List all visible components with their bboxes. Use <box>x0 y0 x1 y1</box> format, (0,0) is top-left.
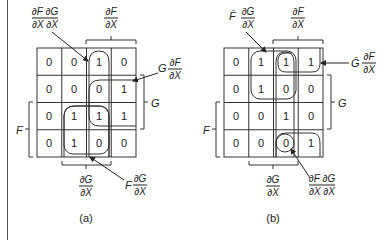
svg-text:∂G: ∂G <box>267 174 280 185</box>
cell-b-2-1: 0 <box>258 110 264 122</box>
cell-b-3-1: 0 <box>258 137 264 149</box>
brace-right-a <box>140 75 148 129</box>
cell-b-2-0: 0 <box>233 110 239 122</box>
cell-a-0-1: 0 <box>71 56 77 68</box>
svg-text:∂X: ∂X <box>134 186 146 197</box>
cell-b-1-2: 0 <box>283 83 289 95</box>
cell-a-1-1: 0 <box>71 83 77 95</box>
kmap-a: 0 0 1 0 0 0 0 1 0 1 1 1 0 1 0 0 <box>16 6 182 224</box>
brace-bottom-b <box>249 161 298 169</box>
cell-a-0-2: 1 <box>96 56 102 68</box>
caption-b: (b) <box>266 212 279 224</box>
brace-left-a <box>25 102 33 157</box>
arrow-a-bottom-right <box>90 157 124 180</box>
label-a-top-left: ∂F ∂G ∂X ∂X <box>32 6 59 30</box>
svg-text:∂F: ∂F <box>105 6 117 17</box>
cell-a-1-0: 0 <box>46 83 52 95</box>
label-b-bottom: ∂G ∂X <box>266 174 280 198</box>
cell-a-2-1: 1 <box>71 110 77 122</box>
label-a-right-top: G ∂F ∂X <box>158 57 182 81</box>
cell-b-1-0: 0 <box>233 83 239 95</box>
cell-a-1-2: 0 <box>96 83 102 95</box>
cell-b-2-3: 0 <box>308 110 314 122</box>
arrow-a-right-top <box>133 73 158 81</box>
svg-text:∂X: ∂X <box>242 19 254 30</box>
label-b-F: F <box>203 124 211 136</box>
cell-b-0-0: 0 <box>233 56 239 68</box>
cell-b-3-2: 0 <box>283 137 289 149</box>
svg-text:∂X: ∂X <box>105 19 117 30</box>
brace-top-b <box>273 36 323 44</box>
svg-text:∂F: ∂F <box>292 6 304 17</box>
label-b-G: G <box>338 97 347 109</box>
brace-top-a <box>86 36 136 44</box>
svg-text:∂G: ∂G <box>134 173 147 184</box>
label-a-bottom: ∂G ∂X <box>79 174 93 198</box>
svg-text:∂G: ∂G <box>242 6 255 17</box>
svg-text:∂X: ∂X <box>80 187 92 198</box>
cell-a-1-3: 1 <box>121 83 127 95</box>
cell-a-2-2: 1 <box>96 110 102 122</box>
svg-text:∂F ∂G: ∂F ∂G <box>309 173 336 184</box>
cell-a-3-0: 0 <box>46 137 52 149</box>
cell-b-0-3: 1 <box>308 56 314 68</box>
cell-a-3-1: 1 <box>71 137 77 149</box>
svg-text:∂F ∂G: ∂F ∂G <box>32 6 59 17</box>
label-a-top-mid: ∂F ∂X <box>104 6 118 30</box>
label-a-F: F <box>16 124 24 136</box>
label-b-right-top: Ḡ ∂F ∂X <box>351 51 376 75</box>
svg-text:F: F <box>125 179 133 191</box>
svg-text:∂F: ∂F <box>169 57 181 68</box>
cell-b-1-3: 0 <box>308 83 314 95</box>
cell-b-0-2: 1 <box>283 56 289 68</box>
label-a-G: G <box>151 97 160 109</box>
svg-text:∂X ∂X: ∂X ∂X <box>32 19 58 30</box>
svg-text:∂F: ∂F <box>363 51 375 62</box>
cell-b-1-1: 1 <box>258 83 264 95</box>
label-b-top-mid: ∂F ∂X <box>291 6 305 30</box>
caption-a: (a) <box>79 212 92 224</box>
svg-text:F̄: F̄ <box>229 10 237 22</box>
label-b-top-left: F̄ ∂G ∂X <box>229 6 255 30</box>
cell-a-2-3: 1 <box>121 110 127 122</box>
label-a-bottom-right: F ∂G ∂X <box>125 173 147 197</box>
brace-left-b <box>212 102 220 157</box>
svg-text:∂X: ∂X <box>267 187 279 198</box>
cell-a-2-0: 0 <box>46 110 52 122</box>
cell-b-2-2: 1 <box>283 110 289 122</box>
svg-text:∂G: ∂G <box>80 174 93 185</box>
cell-b-3-0: 0 <box>233 137 239 149</box>
cell-a-0-0: 0 <box>46 56 52 68</box>
svg-text:∂X ∂X: ∂X ∂X <box>309 186 335 197</box>
arrow-b-bottom-right <box>291 149 310 178</box>
brace-right-b <box>327 75 335 129</box>
svg-text:G: G <box>158 62 167 74</box>
brace-bottom-a <box>62 161 111 169</box>
svg-text:∂X: ∂X <box>169 70 181 81</box>
svg-text:∂X: ∂X <box>292 19 304 30</box>
svg-text:Ḡ: Ḡ <box>351 57 360 69</box>
cell-b-3-3: 1 <box>308 137 314 149</box>
svg-text:∂X: ∂X <box>363 64 375 75</box>
kmap-b: 0 1 1 1 0 1 0 0 0 0 1 0 0 0 0 1 <box>203 6 376 224</box>
cell-a-3-3: 0 <box>121 137 127 149</box>
karnaugh-diagrams: 0 0 1 0 0 0 0 1 0 1 1 1 0 1 0 0 <box>0 0 383 240</box>
cell-b-0-1: 1 <box>258 56 264 68</box>
cell-a-0-3: 0 <box>121 56 127 68</box>
cell-a-3-2: 0 <box>96 137 102 149</box>
label-b-bottom-right: ∂F ∂G ∂X ∂X <box>309 173 336 197</box>
